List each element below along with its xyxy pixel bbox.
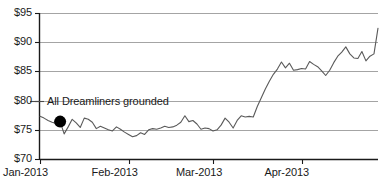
x-tick-label-jan-2013: Jan-2013 [3,166,48,178]
stock-price-chart: $70$75$80$85$90$95 Jan-2013Feb-2013Mar-2… [0,0,380,188]
x-tick-label-apr-2013: Apr-2013 [265,166,309,178]
x-tick-label-mar-2013: Mar-2013 [176,166,222,178]
chart-plot-area [0,0,380,188]
event-marker-dot [54,116,66,128]
y-tick-label-75: $75 [0,123,32,135]
y-tick-label-90: $90 [0,35,32,47]
annotation-dreamliners-grounded: All Dreamliners grounded [47,95,169,107]
gridlines-group [35,14,378,160]
y-tick-label-80: $80 [0,94,32,106]
y-tick-label-70: $70 [0,152,32,164]
x-tick-label-feb-2013: Feb-2013 [92,166,138,178]
price-line [40,28,378,137]
y-tick-label-95: $95 [0,6,32,18]
y-tick-label-85: $85 [0,64,32,76]
